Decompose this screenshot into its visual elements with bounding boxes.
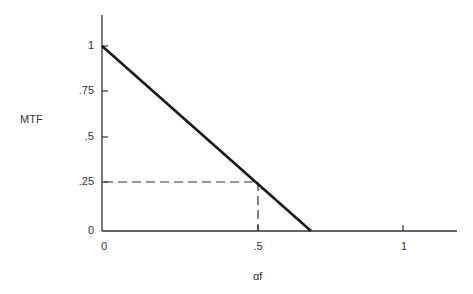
ytick-label-0: 0 bbox=[54, 224, 94, 236]
xtick-label-1: 1 bbox=[389, 240, 419, 252]
mtf-line bbox=[102, 46, 311, 231]
xtick-label-0: 0 bbox=[89, 240, 119, 252]
ytick-label-1: 1 bbox=[54, 39, 94, 51]
ytick-label-025: .25 bbox=[54, 175, 94, 187]
x-axis-label: αf bbox=[253, 270, 262, 282]
xtick-label-05: .5 bbox=[243, 240, 273, 252]
y-axis-label: MTF bbox=[20, 113, 43, 125]
ytick-label-05: .5 bbox=[54, 130, 94, 142]
ytick-label-075: .75 bbox=[54, 84, 94, 96]
x-ticks bbox=[258, 225, 403, 231]
dashed-guides bbox=[104, 182, 258, 231]
y-ticks bbox=[102, 46, 108, 182]
